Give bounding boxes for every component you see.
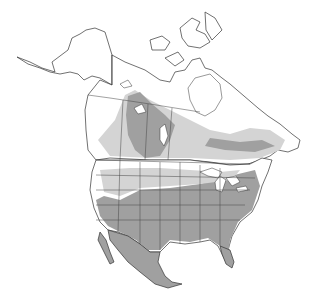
arctic-islands bbox=[150, 12, 222, 66]
alaska-landmass bbox=[17, 28, 112, 85]
florida bbox=[220, 246, 234, 268]
range-map bbox=[0, 0, 317, 300]
